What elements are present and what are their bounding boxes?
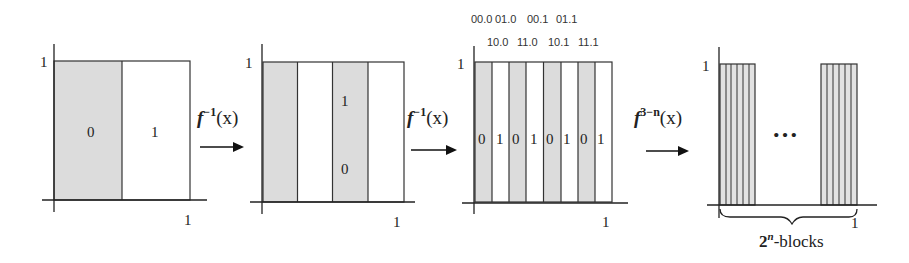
panel-3: 1 1 00.0 01.0 00.1 01.1 10.0 11.0 10.1 1…	[457, 13, 628, 230]
panel-2-label-bottom: 0	[341, 161, 349, 177]
binary-label: 01.1	[556, 13, 577, 25]
panel-2-label-top: 1	[341, 93, 349, 109]
brace-label-suffix: -blocks	[774, 232, 824, 251]
ellipsis: …	[772, 114, 798, 143]
arrow-2-func: f−1(x)	[407, 105, 448, 129]
arrow-2-exp: −1	[413, 105, 426, 119]
strip-label: 0	[512, 131, 520, 147]
arrow-3-exp: 3−n	[640, 105, 660, 119]
panel-3-header-row-1: 00.0 01.0 00.1 01.1	[471, 13, 577, 25]
arrow-1-exp: −1	[203, 105, 216, 119]
binary-label: 11.1	[578, 36, 599, 48]
binary-label: 00.0	[471, 13, 492, 25]
arrow-2-head	[446, 145, 457, 155]
panel-2-strip-1	[298, 62, 333, 202]
panel-2: 1 1 1 0	[245, 44, 415, 230]
strip-label: 1	[597, 131, 605, 147]
binary-label: 01.0	[495, 13, 516, 25]
binary-label: 11.0	[517, 36, 538, 48]
panel-2-x-tick: 1	[393, 214, 401, 230]
panel-2-strip-2	[333, 62, 369, 202]
panel-4-x-tick: 1	[851, 215, 859, 231]
panel-2-y-tick: 1	[245, 55, 253, 71]
strip-label: 0	[546, 131, 554, 147]
strip-label: 1	[563, 131, 571, 147]
panel-4: 1 1 … 2n-blocks	[702, 47, 877, 251]
strip-label: 0	[478, 131, 486, 147]
panel-3-header-row-2: 10.0 11.0 10.1 11.1	[487, 36, 599, 48]
panel-1: 1 1 0 1	[40, 44, 207, 228]
panel-1-label-1: 1	[151, 124, 159, 140]
arrow-3-func: f3−n(x)	[634, 105, 682, 129]
panel-2-strip-0	[263, 62, 298, 202]
diagram-canvas: 1 1 0 1 f−1(x) 1 1 1 0 f−1(x)	[0, 0, 909, 263]
arrow-3: f3−n(x)	[634, 105, 689, 156]
panel-3-y-tick: 1	[457, 56, 465, 72]
brace-label: 2n-blocks	[759, 230, 824, 251]
panel-2-strip-3	[368, 62, 404, 202]
panel-3-x-tick: 1	[602, 214, 610, 230]
panel-4-right-block	[821, 64, 857, 205]
arrow-2: f−1(x)	[407, 105, 457, 155]
arrow-3-head	[678, 146, 689, 156]
arrow-1-arg: (x)	[216, 107, 238, 129]
brace-icon	[720, 209, 857, 224]
arrow-1: f−1(x)	[197, 105, 244, 152]
panel-4-left-block	[720, 64, 755, 205]
panel-1-x-tick: 1	[184, 212, 192, 228]
binary-label: 10.1	[548, 36, 569, 48]
strip-label: 0	[580, 131, 588, 147]
panel-1-label-0: 0	[87, 124, 95, 140]
strip-label: 1	[496, 131, 504, 147]
arrow-1-func: f−1(x)	[197, 105, 238, 129]
brace-label-base: 2	[759, 232, 768, 251]
binary-label: 10.0	[487, 36, 508, 48]
arrow-1-head	[233, 142, 244, 152]
panel-1-y-tick: 1	[40, 54, 48, 70]
strip-label: 1	[530, 131, 538, 147]
arrow-2-arg: (x)	[426, 107, 448, 129]
binary-label: 00.1	[527, 13, 548, 25]
arrow-3-arg: (x)	[660, 107, 682, 129]
panel-4-y-tick: 1	[702, 58, 710, 74]
